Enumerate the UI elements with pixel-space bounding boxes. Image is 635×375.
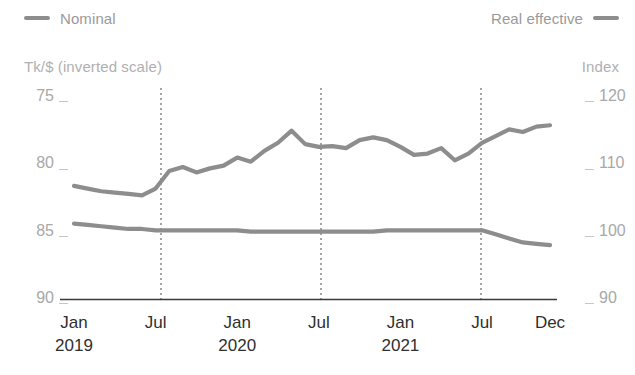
- vertical-gridlines: [161, 88, 481, 299]
- exchange-rate-chart: Nominal Real effective Tk/$ (inverted sc…: [0, 0, 635, 375]
- series-line-nominal: [74, 224, 550, 246]
- data-series-layer: [74, 125, 550, 245]
- series-line-real-effective: [74, 125, 550, 195]
- plot-area: [0, 0, 635, 375]
